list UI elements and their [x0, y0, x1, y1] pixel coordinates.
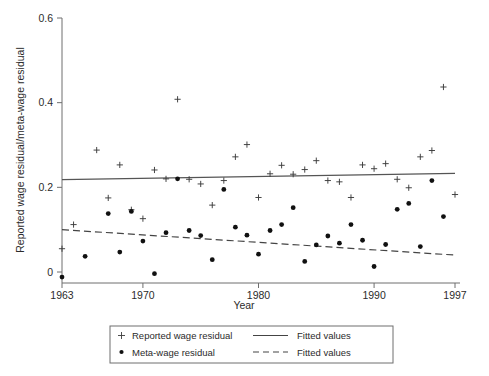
x-tick-label: 1963 — [50, 289, 74, 301]
data-point-dot — [83, 254, 88, 259]
y-tick-label: 0.4 — [38, 96, 53, 108]
data-point-dot — [256, 252, 261, 257]
x-tick-label: 1990 — [362, 289, 386, 301]
data-point-dot — [395, 207, 400, 212]
legend: Reported wage residual Fitted values Met… — [110, 326, 393, 363]
data-point-dot — [233, 225, 238, 230]
y-tick-label: 0.6 — [38, 12, 53, 24]
y-tick-label: 0 — [47, 266, 53, 278]
data-point-dot — [175, 176, 180, 181]
scatter-plot-canvas: 00.20.40.6 19631970198019901997 Reported… — [0, 0, 489, 376]
x-tick-label: 1970 — [131, 289, 155, 301]
data-point-dot — [429, 178, 434, 183]
legend-label-meta: Meta-wage residual — [132, 347, 215, 358]
chart-figure: 00.20.40.6 19631970198019901997 Reported… — [0, 0, 489, 376]
data-point-dot — [152, 271, 157, 276]
data-point-dot — [198, 233, 203, 238]
data-point-dot — [441, 214, 446, 219]
data-point-dot — [268, 228, 273, 233]
data-point-dot — [360, 238, 365, 243]
data-point-dot — [106, 211, 111, 216]
data-point-dot — [325, 234, 330, 239]
data-point-dot — [187, 228, 192, 233]
legend-label-fitted-solid: Fitted values — [297, 330, 351, 341]
data-point-dot — [291, 205, 296, 210]
legend-label-fitted-dashed: Fitted values — [297, 347, 351, 358]
data-point-dot — [337, 241, 342, 246]
data-point-dot — [164, 230, 169, 235]
data-point-dot — [117, 250, 122, 255]
data-point-dot — [245, 233, 250, 238]
dot-icon — [119, 350, 123, 354]
data-point-dot — [383, 242, 388, 247]
data-point-dot — [60, 275, 65, 280]
x-axis-title: Year — [233, 299, 255, 311]
data-point-dot — [418, 244, 423, 249]
data-point-dot — [210, 257, 215, 262]
data-point-dot — [349, 222, 354, 227]
legend-label-reported: Reported wage residual — [132, 330, 232, 341]
data-point-dot — [221, 187, 226, 192]
data-point-dot — [406, 201, 411, 206]
x-tick-label: 1997 — [443, 289, 467, 301]
data-point-dot — [372, 264, 377, 269]
y-axis-title: Reported wage residual/meta-wage residua… — [14, 47, 26, 252]
figure-background — [0, 0, 489, 376]
data-point-dot — [141, 239, 146, 244]
data-point-dot — [129, 209, 134, 214]
y-tick-label: 0.2 — [38, 181, 53, 193]
data-point-dot — [279, 222, 284, 227]
data-point-dot — [314, 243, 319, 248]
data-point-dot — [302, 259, 307, 264]
